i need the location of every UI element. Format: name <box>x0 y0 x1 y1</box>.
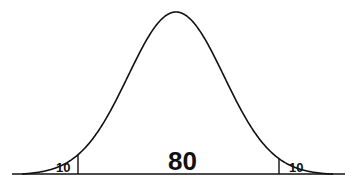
middle-region-label: 80 <box>168 148 197 174</box>
right-tail-label: 10 <box>289 161 303 174</box>
left-tail-label: 10 <box>56 161 70 174</box>
